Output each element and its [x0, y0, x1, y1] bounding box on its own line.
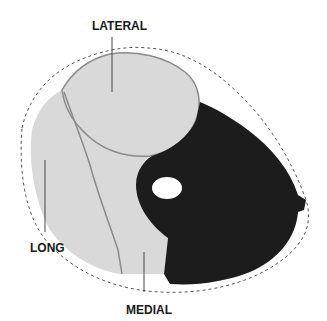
bone-hole: [152, 177, 182, 199]
label-long: LONG: [30, 241, 65, 255]
cross-section-diagram: LATERAL LONG MEDIAL: [0, 0, 327, 321]
label-medial: MEDIAL: [126, 303, 172, 317]
label-lateral: LATERAL: [92, 19, 147, 33]
